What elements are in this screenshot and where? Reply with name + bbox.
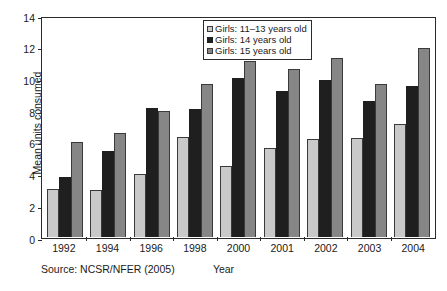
bar[interactable] <box>394 124 406 237</box>
y-tick-label: 8 <box>11 106 35 121</box>
bar[interactable] <box>232 78 244 237</box>
bar-group <box>391 19 434 237</box>
bar-group <box>86 19 129 237</box>
x-tick-label: 2002 <box>304 242 348 254</box>
source-note: Source: NCSR/NFER (2005) <box>41 263 175 275</box>
x-tick-mark <box>304 237 305 241</box>
legend: Girls: 11–13 years oldGirls: 14 years ol… <box>203 20 312 60</box>
bar[interactable] <box>375 84 387 237</box>
bar[interactable] <box>406 86 418 237</box>
bar[interactable] <box>319 80 331 237</box>
bar[interactable] <box>59 177 71 237</box>
x-tick-mark <box>86 237 87 241</box>
y-tick-mark <box>38 49 42 50</box>
y-tick-mark <box>38 144 42 145</box>
x-tick-label: 2004 <box>391 242 435 254</box>
y-tick-mark <box>38 176 42 177</box>
x-tick-label: 1996 <box>129 242 173 254</box>
legend-swatch-icon <box>207 26 213 32</box>
x-tick-label: 2001 <box>260 242 304 254</box>
bar[interactable] <box>307 139 319 237</box>
bar[interactable] <box>264 148 276 237</box>
bar-group <box>43 19 86 237</box>
y-tick-label: 12 <box>11 42 35 57</box>
bar[interactable] <box>146 108 158 237</box>
bar[interactable] <box>244 61 256 237</box>
bar[interactable] <box>102 151 114 237</box>
x-tick-label: 1994 <box>86 242 130 254</box>
legend-label: Girls: 14 years old <box>215 34 292 45</box>
bar[interactable] <box>71 142 83 237</box>
y-tick-label: 14 <box>11 11 35 26</box>
y-tick-label: 4 <box>11 169 35 184</box>
x-tick-label: 1992 <box>42 242 86 254</box>
bar[interactable] <box>363 101 375 237</box>
legend-label: Girls: 15 years old <box>215 45 292 56</box>
legend-item[interactable]: Girls: 14 years old <box>207 34 307 45</box>
y-tick-label: 0 <box>11 233 35 248</box>
legend-swatch-icon <box>207 48 213 54</box>
bar[interactable] <box>114 133 126 237</box>
y-tick-mark <box>38 240 42 241</box>
y-tick-label: 6 <box>11 137 35 152</box>
y-tick-mark <box>38 208 42 209</box>
bar[interactable] <box>418 48 430 237</box>
bar[interactable] <box>220 166 232 237</box>
bar-chart-figure: Mean units consumed 14121086420 19921994… <box>0 0 447 291</box>
bar[interactable] <box>276 91 288 237</box>
bar[interactable] <box>351 138 363 237</box>
y-tick-label: 10 <box>11 74 35 89</box>
x-axis-tick-labels: 199219941996199820002001200220032004 <box>42 242 435 254</box>
x-tick-mark <box>173 237 174 241</box>
x-tick-mark <box>260 237 261 241</box>
bar[interactable] <box>134 174 146 237</box>
bar[interactable] <box>201 84 213 237</box>
bar-group <box>347 19 390 237</box>
y-tick-label: 2 <box>11 201 35 216</box>
legend-item[interactable]: Girls: 15 years old <box>207 45 307 56</box>
x-tick-label: 2003 <box>348 242 392 254</box>
x-tick-mark <box>130 237 131 241</box>
legend-item[interactable]: Girls: 11–13 years old <box>207 23 307 34</box>
bar[interactable] <box>288 69 300 237</box>
x-tick-label: 1998 <box>173 242 217 254</box>
y-tick-mark <box>38 81 42 82</box>
bar[interactable] <box>90 190 102 237</box>
bar[interactable] <box>158 111 170 237</box>
bar[interactable] <box>47 189 59 237</box>
x-tick-mark <box>391 237 392 241</box>
y-tick-mark <box>38 113 42 114</box>
bar[interactable] <box>331 58 343 237</box>
bar[interactable] <box>177 137 189 237</box>
x-tick-mark <box>347 237 348 241</box>
y-tick-mark <box>38 18 42 19</box>
x-tick-label: 2000 <box>217 242 261 254</box>
legend-swatch-icon <box>207 37 213 43</box>
legend-label: Girls: 11–13 years old <box>215 23 307 34</box>
bar[interactable] <box>189 109 201 237</box>
bar-group <box>130 19 173 237</box>
x-tick-mark <box>217 237 218 241</box>
